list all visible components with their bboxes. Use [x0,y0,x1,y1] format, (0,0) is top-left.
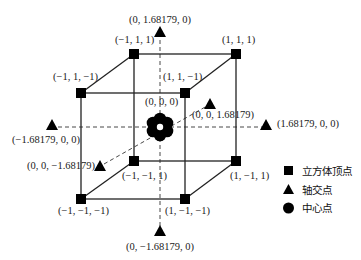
axial-label: (−1.68179, 0, 0) [12,134,81,146]
vertex-label: (1, −1, 1) [230,170,270,182]
triangle-marker-icon [46,119,58,130]
square-marker-icon [180,194,190,204]
center-point-label: (0, 0, 0) [145,96,179,108]
legend-label-cube-vertex: 立方体顶点 [302,165,352,177]
axial-label: (0, 1.68179, 0) [129,14,192,26]
axial-label: (1.68179, 0, 0) [277,118,340,130]
legend-label-center-point: 中心点 [302,202,332,214]
center-point-cluster [147,113,174,142]
cube-edge-bottom-right [185,161,236,199]
vertex-label: (1, −1, −1) [165,205,211,217]
vertex-label: (−1, 1, 1) [115,34,155,46]
axial-label: (0, −1.68179, 0) [126,241,195,253]
square-marker-icon [231,156,241,166]
center-hole [157,124,163,130]
square-marker-icon [180,88,190,98]
vertex-label: (−1, −1, 1) [122,170,168,182]
axial-label: (0, 0, −1.68179) [27,160,96,172]
legend-square-icon [284,166,293,175]
triangle-marker-icon [260,119,272,130]
legend-label-axial-point: 轴交点 [302,184,332,196]
axial-point-labels: (0, 1.68179, 0) (0, −1.68179, 0) (−1.681… [12,14,340,253]
square-marker-icon [76,194,86,204]
square-marker-icon [231,49,241,59]
square-marker-icon [76,88,86,98]
vertex-label: (−1, 1, −1) [53,71,99,83]
vertex-label: (1, 1, −1) [163,71,203,83]
square-marker-icon [129,49,139,59]
vertex-label: (−1, −1, −1) [58,205,110,217]
square-marker-icon [129,156,139,166]
legend-circle-icon [283,203,294,214]
triangle-marker-icon [154,225,166,236]
axial-label: (0, 0, 1.68179) [192,109,255,121]
triangle-marker-icon [204,98,216,109]
triangle-marker-icon [154,26,166,37]
legend: 立方体顶点 轴交点 中心点 [283,165,352,214]
cube-front-face [81,93,185,199]
central-composite-design-diagram: (−1, 1, 1) (1, 1, 1) (−1, 1, −1) (1, 1, … [0,0,361,260]
legend-triangle-icon [283,184,294,194]
triangle-marker-icon [94,160,106,171]
vertex-label: (1, 1, 1) [222,34,256,46]
